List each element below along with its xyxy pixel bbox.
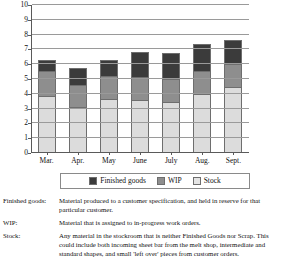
x-tick-mark [140, 152, 141, 155]
gridline-5 [32, 78, 249, 79]
definition-row: WIP:Material that is assigned to in-prog… [3, 218, 279, 227]
chart-legend: Finished goodsWIPStock [60, 173, 250, 189]
x-tick-label: Sept. [218, 156, 249, 168]
gridline-6 [32, 63, 249, 64]
legend-entry-stock[interactable]: Stock [193, 177, 221, 185]
plot-wrapper [31, 5, 249, 153]
bar-segment-wip [194, 71, 210, 94]
gridline-10 [32, 4, 249, 5]
definition-term: Stock: [3, 231, 59, 240]
definition-description: Material produced to a customer specific… [59, 196, 279, 214]
x-tick-label: May [93, 156, 124, 168]
y-tick-mark [28, 123, 31, 124]
bar-segment-wip [132, 77, 148, 100]
bar-segment-stock [225, 87, 241, 152]
plot-area [31, 5, 249, 153]
x-tick-mark [233, 152, 234, 155]
x-tick-label: Mar. [31, 156, 62, 168]
x-tick-mark [78, 152, 79, 155]
gridline-9 [32, 19, 249, 20]
y-tick-label: 1 [6, 134, 28, 142]
bar-segment-wip [163, 79, 179, 102]
bar-segment-stock [163, 102, 179, 152]
bar-segment-finished-goods [132, 53, 148, 77]
stacked-bar[interactable] [224, 40, 242, 152]
y-tick-mark [28, 94, 31, 95]
x-tick-mark [202, 152, 203, 155]
y-tick-mark [28, 153, 31, 154]
x-tick-label: Apr. [62, 156, 93, 168]
definition-description: Any material in the stockroom that is ne… [59, 231, 279, 258]
definition-description: Material that is assigned to in-progress… [59, 218, 279, 227]
x-tick-mark [109, 152, 110, 155]
definition-row: Stock:Any material in the stockroom that… [3, 231, 279, 258]
stacked-bar[interactable] [100, 60, 118, 152]
x-tick-mark [171, 152, 172, 155]
y-tick-label: 10 [6, 1, 28, 9]
legend-label: WIP [168, 177, 182, 185]
y-tick-label: 8 [6, 31, 28, 39]
gridline-2 [32, 122, 249, 123]
bar-segment-wip [225, 64, 241, 87]
bar-segment-finished-goods [163, 54, 179, 79]
legend-swatch-wip-icon [157, 177, 165, 185]
definition-list: Finished goods:Material produced to a cu… [3, 196, 279, 262]
y-tick-label: 2 [6, 119, 28, 127]
y-tick-label: 4 [6, 90, 28, 98]
definition-term: WIP: [3, 218, 59, 227]
y-tick-label: 3 [6, 105, 28, 113]
y-tick-mark [28, 79, 31, 80]
y-tick-mark [28, 138, 31, 139]
stacked-bar[interactable] [69, 68, 87, 152]
legend-swatch-finished-icon [89, 177, 97, 185]
bar-segment-finished-goods [225, 41, 241, 64]
stacked-bar[interactable] [193, 44, 211, 152]
x-axis-labels: Mar.Apr.MayJuneJulyAug.Sept. [31, 156, 249, 168]
gridline-7 [32, 48, 249, 49]
bar-segment-wip [70, 85, 86, 107]
x-tick-mark [47, 152, 48, 155]
legend-label: Finished goods [100, 177, 146, 185]
y-tick-mark [28, 49, 31, 50]
bar-segment-finished-goods [39, 61, 55, 72]
y-tick-mark [28, 20, 31, 21]
gridline-8 [32, 34, 249, 35]
x-tick-label: June [124, 156, 155, 168]
y-tick-mark [28, 35, 31, 36]
legend-entry-finished[interactable]: Finished goods [89, 177, 146, 185]
gridline-4 [32, 93, 249, 94]
legend-entry-wip[interactable]: WIP [157, 177, 182, 185]
y-tick-label: 6 [6, 60, 28, 68]
y-tick-mark [28, 5, 31, 6]
y-tick-label: 0 [6, 149, 28, 157]
legend-label: Stock [204, 177, 221, 185]
legend-swatch-stock-icon [193, 177, 201, 185]
y-tick-label: 9 [6, 16, 28, 24]
y-tick-mark [28, 64, 31, 65]
y-tick-label: 7 [6, 45, 28, 53]
stacked-bar-chart: 012345678910 Mar.Apr.MayJuneJulyAug.Sept… [0, 0, 281, 170]
x-tick-label: Aug. [187, 156, 218, 168]
y-tick-mark [28, 109, 31, 110]
bar-segment-stock [39, 96, 55, 152]
x-tick-label: July [156, 156, 187, 168]
bar-segment-wip [101, 76, 117, 99]
y-tick-label: 5 [6, 75, 28, 83]
bar-segment-stock [70, 107, 86, 152]
gridline-1 [32, 137, 249, 138]
gridline-3 [32, 108, 249, 109]
definition-term: Finished goods: [3, 196, 59, 205]
definition-row: Finished goods:Material produced to a cu… [3, 196, 279, 214]
